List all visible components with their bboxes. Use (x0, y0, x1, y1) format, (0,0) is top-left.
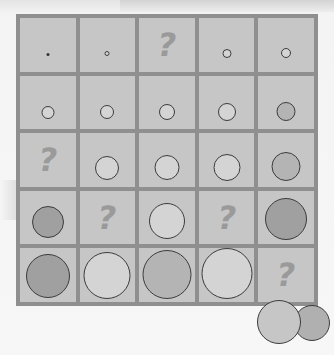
grid-cell-r1-c4[interactable] (199, 18, 255, 72)
disc-icon (46, 53, 49, 56)
question-mark-icon: ? (36, 144, 60, 176)
disc-icon (272, 152, 301, 181)
disc-icon (95, 156, 119, 180)
grid-cell-r1-c5[interactable] (258, 18, 314, 72)
page-shadow (120, 0, 334, 12)
disc-icon (84, 252, 131, 299)
grid-cell-r2-c2[interactable] (80, 76, 136, 130)
question-mark-icon: ? (155, 29, 179, 61)
disc-icon (222, 49, 231, 58)
disc-icon (218, 103, 236, 121)
disc-icon (100, 105, 114, 119)
page-shadow (0, 180, 16, 220)
grid-cell-r5-c4[interactable] (199, 248, 255, 302)
disc-icon (32, 206, 64, 238)
grid-cell-r4-c4[interactable]: ? (199, 191, 255, 245)
disc-icon (149, 203, 185, 239)
grid-cell-r4-c3[interactable] (139, 191, 195, 245)
disc-icon (265, 198, 307, 240)
question-mark-icon: ? (95, 202, 119, 234)
disc-icon (154, 155, 179, 180)
grid-cell-r3-c5[interactable] (258, 133, 314, 187)
grid-cell-r5-c5[interactable]: ? (258, 248, 314, 302)
grid-cell-r1-c2[interactable] (80, 18, 136, 72)
grid-cell-r1-c1[interactable] (20, 18, 76, 72)
disc-icon (281, 48, 291, 58)
grid-cell-r4-c5[interactable] (258, 191, 314, 245)
disc-icon (26, 254, 70, 298)
disc-icon (41, 106, 54, 119)
disc-icon (277, 102, 296, 121)
grid-cell-r2-c1[interactable] (20, 76, 76, 130)
grid-cell-r5-c1[interactable] (20, 248, 76, 302)
answer-disc-icon[interactable] (257, 300, 301, 344)
question-mark-icon: ? (214, 202, 238, 234)
grid-cell-r4-c2[interactable]: ? (80, 191, 136, 245)
question-mark-icon: ? (274, 259, 298, 291)
puzzle-grid: ????? (16, 14, 318, 306)
disc-icon (105, 51, 110, 56)
grid-cell-r3-c3[interactable] (139, 133, 195, 187)
grid-cell-r4-c1[interactable] (20, 191, 76, 245)
grid-cell-r3-c2[interactable] (80, 133, 136, 187)
grid-cell-r2-c3[interactable] (139, 76, 195, 130)
grid-cell-r2-c4[interactable] (199, 76, 255, 130)
disc-icon (213, 154, 240, 181)
grid-cell-r1-c3[interactable]: ? (139, 18, 195, 72)
grid-cell-r5-c3[interactable] (139, 248, 195, 302)
grid-cell-r3-c1[interactable]: ? (20, 133, 76, 187)
disc-icon (142, 250, 191, 299)
disc-icon (159, 104, 175, 120)
grid-cell-r3-c4[interactable] (199, 133, 255, 187)
disc-icon (201, 248, 252, 299)
grid-cell-r5-c2[interactable] (80, 248, 136, 302)
grid-cell-r2-c5[interactable] (258, 76, 314, 130)
